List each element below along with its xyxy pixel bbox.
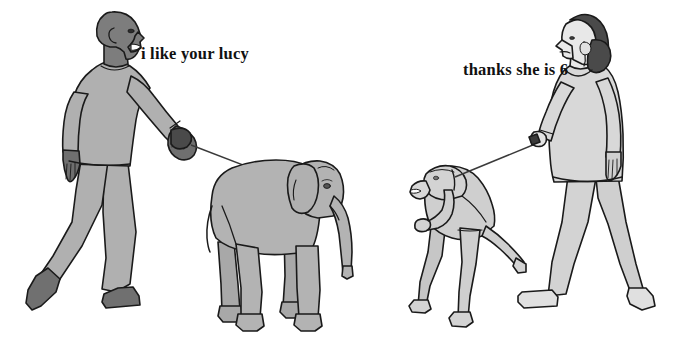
woman-front-foot <box>518 290 558 308</box>
elephant-ear <box>288 164 319 213</box>
man-far-leg <box>102 162 136 292</box>
elephant-eye <box>324 184 331 189</box>
leash-handle-left <box>171 128 191 149</box>
leash-handle-right <box>529 134 540 145</box>
caption-left: i like your lucy <box>141 44 249 64</box>
crouched-hand <box>415 219 431 232</box>
meme-illustration <box>0 0 689 344</box>
crouched-far-foot <box>409 300 431 313</box>
crouched-eye <box>433 176 438 180</box>
elephant-hind-foot <box>236 314 264 331</box>
man-eye <box>128 29 134 33</box>
woman-hair-bun <box>588 40 611 73</box>
crouched-near-foot <box>449 312 473 327</box>
meme-canvas: i like your lucy thanks she is 6 <box>0 0 689 344</box>
caption-right: thanks she is 6 <box>463 60 568 80</box>
woman-eye <box>570 36 575 39</box>
elephant-trunk-tip <box>342 266 353 279</box>
woman-ear <box>580 42 591 55</box>
elephant-front-leg <box>296 246 320 322</box>
elephant-front-foot <box>294 314 322 331</box>
